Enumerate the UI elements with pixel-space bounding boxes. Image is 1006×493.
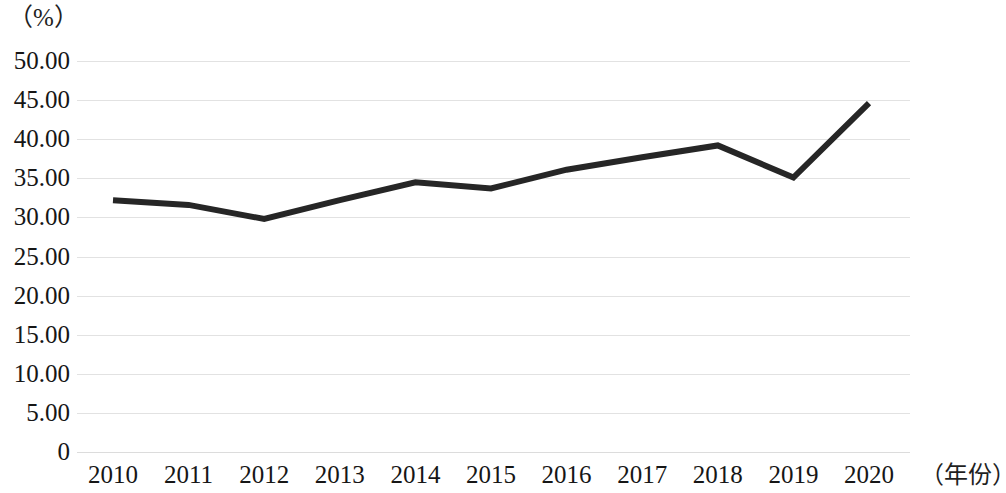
gridline xyxy=(77,452,910,453)
series-line xyxy=(113,103,869,219)
y-axis-tick-label: 50.00 xyxy=(0,48,70,73)
y-axis-tick-label: 45.00 xyxy=(0,87,70,112)
line-chart: （%） 50.0045.0040.0035.0030.0025.0020.001… xyxy=(0,0,1006,493)
x-axis-tick-label: 2020 xyxy=(824,460,914,490)
y-axis-tick-label: 10.00 xyxy=(0,361,70,386)
y-axis-tick-labels: 50.0045.0040.0035.0030.0025.0020.0015.00… xyxy=(0,61,70,452)
y-axis-tick-label: 0 xyxy=(0,439,70,464)
y-axis-tick-label: 5.00 xyxy=(0,400,70,425)
y-axis-tick-label: 30.00 xyxy=(0,204,70,229)
x-axis-tick-labels: 2010201120122013201420152016201720182019… xyxy=(77,460,910,493)
series-line-chart xyxy=(77,61,910,452)
y-axis-tick-label: 25.00 xyxy=(0,244,70,269)
y-axis-unit-label: （%） xyxy=(8,2,79,34)
y-axis-tick-label: 20.00 xyxy=(0,283,70,308)
plot-area xyxy=(77,61,910,452)
y-axis-tick-label: 40.00 xyxy=(0,126,70,151)
y-axis-tick-label: 35.00 xyxy=(0,165,70,190)
x-axis-unit-label: （年份） xyxy=(920,459,1006,491)
y-axis-tick-label: 15.00 xyxy=(0,322,70,347)
